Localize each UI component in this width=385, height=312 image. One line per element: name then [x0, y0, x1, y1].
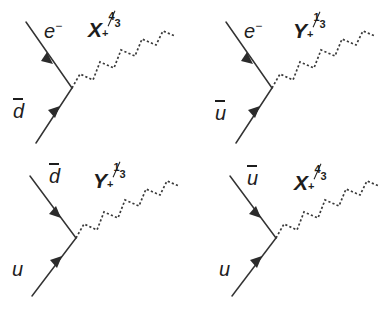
boson-symbol: Y [93, 169, 107, 192]
boson-symbol: Y [293, 19, 307, 42]
label-boson-top-left: X+ 4 3 [88, 14, 123, 40]
label-boson-bottom-right: X+ 4 3 [294, 167, 329, 193]
label-upper-particle-bottom-left: d [49, 166, 60, 186]
boson-charge-sign: + [307, 28, 313, 40]
label-upper-particle-bottom-right: u [247, 168, 258, 188]
label-boson-bottom-left: Y+ 1 3 [93, 165, 128, 191]
boson-charge-sign: + [107, 178, 113, 190]
particle-glyph: u [247, 167, 258, 189]
particle-charge: − [255, 19, 262, 33]
label-upper-particle-top-right: e− [244, 20, 262, 41]
particle-glyph: u [215, 102, 226, 124]
diagram-bottom-right [193, 156, 385, 312]
fraction-denominator: 3 [319, 19, 325, 30]
boson-charge-fraction: 4 3 [314, 166, 329, 181]
lower-fermion-line [32, 238, 76, 296]
lower-fermion-arrow [248, 106, 260, 118]
boson-charge-sign: + [102, 27, 108, 39]
particle-glyph: d [49, 165, 60, 187]
upper-fermion-arrow [49, 206, 61, 218]
feynman-figure-canvas: e− d X+ 4 3 e− u Y+ 1 3 [0, 0, 385, 312]
particle-symbol: u [12, 259, 23, 279]
diagram-top-right [193, 0, 385, 156]
particle-symbol: u [247, 168, 258, 188]
upper-fermion-arrow [249, 206, 261, 218]
lower-fermion-line [232, 238, 276, 296]
particle-glyph: d [13, 100, 24, 122]
fraction-denominator: 3 [320, 171, 326, 182]
label-boson-top-right: Y+ 1 3 [293, 15, 328, 41]
boson-charge-fraction: 1 3 [313, 14, 328, 29]
label-lower-particle-top-left: d [13, 101, 24, 121]
lower-fermion-arrow [48, 106, 60, 118]
label-upper-particle-top-left: e− [44, 20, 62, 41]
particle-symbol: e [244, 21, 255, 41]
boson-charge-sign: + [308, 180, 314, 192]
particle-symbol: e [44, 21, 55, 41]
antiparticle-bar [49, 163, 59, 165]
boson-charge-fraction: 4 3 [108, 13, 123, 28]
particle-symbol: u [215, 103, 226, 123]
lower-fermion-arrow [50, 256, 62, 268]
lower-fermion-arrow [250, 256, 262, 268]
fraction-denominator: 3 [119, 169, 125, 180]
particle-symbol: d [13, 101, 24, 121]
particle-symbol: d [49, 166, 60, 186]
antiparticle-bar [13, 98, 23, 100]
boson-symbol: X [294, 171, 308, 194]
label-lower-particle-bottom-left: u [12, 259, 23, 279]
antiparticle-bar [215, 100, 225, 102]
particle-charge: − [55, 19, 62, 33]
boson-symbol: X [88, 18, 102, 41]
label-lower-particle-bottom-right: u [219, 259, 230, 279]
antiparticle-bar [247, 165, 257, 167]
fraction-denominator: 3 [114, 18, 120, 29]
label-lower-particle-top-right: u [215, 103, 226, 123]
boson-charge-fraction: 1 3 [113, 164, 128, 179]
particle-symbol: u [219, 259, 230, 279]
